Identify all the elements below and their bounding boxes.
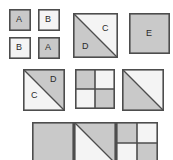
diagonal-square-cd-row1-label-c: C [102, 24, 109, 33]
small-square-a-bottom-right-label-a: A [45, 43, 51, 52]
diagonal-square-cd-row2-label-c: C [31, 91, 38, 100]
quadrant-square-bottom-right [116, 122, 158, 160]
diagonal-square-cd-row1-label-d: D [82, 42, 89, 51]
small-square-b-bottom-left-label-b: B [16, 43, 22, 52]
plain-square-e-label-e: E [146, 29, 152, 38]
diagonal-square-cd-row2-label-d: D [50, 75, 57, 84]
small-square-a-top-left-label-a: A [16, 15, 22, 24]
small-square-b-top-right-label-b: B [45, 15, 51, 24]
diagonal-square-bottom-middle [74, 122, 116, 160]
shape-diagram-canvas: ABBACDEDC [0, 0, 173, 160]
diagonal-square-cd-row2 [23, 69, 65, 111]
plain-square-bottom-left [32, 122, 74, 160]
diagonal-square-cd-row1 [73, 13, 118, 58]
quadrant-square-row2 [75, 69, 115, 109]
diagonal-square-unlabeled-row2 [122, 69, 164, 111]
